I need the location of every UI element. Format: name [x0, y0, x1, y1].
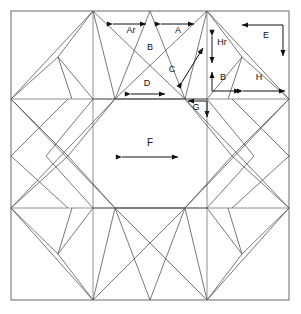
label-ar: Ar: [127, 25, 136, 35]
arrow-c: [182, 48, 203, 82]
label-e: E: [263, 30, 269, 40]
label-f: F: [147, 137, 153, 148]
corner-fan-bottom-right: [207, 208, 289, 300]
corner-fan-top-right: [207, 11, 289, 99]
label-c: C: [169, 64, 176, 74]
block-canvas: Ar A B C D E Hr B H G F: [0, 0, 301, 314]
corner-fan-bottom-left: [11, 208, 93, 300]
corner-fan-top-left: [11, 11, 93, 99]
label-b-right: B: [220, 72, 226, 82]
label-hr: Hr: [217, 37, 227, 47]
label-d: D: [144, 78, 151, 88]
label-h: H: [256, 72, 263, 82]
label-g: G: [192, 102, 199, 112]
label-b-top: B: [147, 42, 153, 52]
label-a: A: [175, 25, 181, 35]
center-octagon-f: [46, 99, 254, 208]
quilt-block-diagram: Ar A B C D E Hr B H G F: [0, 0, 301, 314]
piece-labels: Ar A B C D E Hr B H G F: [127, 25, 270, 148]
